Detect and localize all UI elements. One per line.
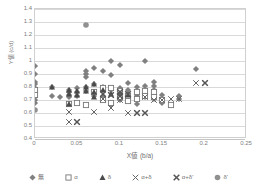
data-point [81, 66, 91, 76]
y-axis-tick-label: 0.4 [12, 135, 32, 141]
data-point [140, 87, 150, 97]
legend-item-label: 無 [38, 174, 44, 181]
data-point [72, 83, 82, 93]
data-point [115, 87, 125, 97]
cross-x-icon [131, 173, 140, 182]
data-point [140, 92, 150, 102]
data-point [106, 98, 116, 108]
data-point [174, 91, 184, 101]
data-point [89, 87, 99, 97]
data-point [81, 82, 91, 92]
plot-area [34, 8, 246, 138]
data-point [157, 95, 167, 105]
data-points-layer [35, 9, 245, 137]
data-point [132, 108, 142, 118]
data-point [89, 91, 99, 101]
data-point [47, 82, 57, 92]
data-point [106, 103, 116, 113]
y-axis-tick-labels: 0.40.50.60.70.80.911.11.21.31.4 [12, 8, 32, 138]
y-axis-tick-label: 1.4 [12, 5, 32, 11]
data-point [149, 77, 159, 87]
data-point [106, 90, 116, 100]
y-axis-tick-label: 1.3 [12, 18, 32, 24]
data-point [35, 105, 40, 115]
data-point [81, 100, 91, 110]
data-point [35, 90, 40, 100]
triangle-filled-icon [98, 173, 107, 182]
data-point [89, 79, 99, 89]
data-point [115, 60, 125, 70]
data-point [35, 90, 40, 100]
data-point [115, 91, 125, 101]
y-axis-tick-label: 0.9 [12, 70, 32, 76]
y-axis-tick-label: 1.1 [12, 44, 32, 50]
data-point [106, 85, 116, 95]
data-point [132, 108, 142, 118]
data-point [140, 91, 150, 101]
x-axis-tick-label: 0.15 [155, 140, 167, 147]
x-axis-tick-label: 0.2 [199, 140, 207, 147]
data-point [55, 92, 65, 102]
data-point [64, 90, 74, 100]
data-point [47, 82, 57, 92]
legend-item-5[interactable]: α+δ' [172, 173, 193, 182]
data-point [115, 95, 125, 105]
diamond-filled-icon [28, 173, 37, 182]
data-point [72, 86, 82, 96]
data-point [157, 94, 167, 104]
y-axis-tick-label: 0.7 [12, 96, 32, 102]
data-point [64, 99, 74, 109]
data-point [140, 92, 150, 102]
data-point [81, 72, 91, 82]
data-point [149, 94, 159, 104]
data-point [191, 78, 201, 88]
data-point [98, 92, 108, 102]
x-axis-tick-label: 0.05 [71, 140, 83, 147]
data-point [132, 94, 142, 104]
data-point [149, 95, 159, 105]
data-point [81, 86, 91, 96]
legend-item-label: δ' [223, 174, 228, 181]
data-point [115, 83, 125, 93]
legend-item-6[interactable]: δ' [213, 173, 228, 182]
data-point [98, 94, 108, 104]
data-point [35, 92, 40, 102]
data-point [140, 56, 150, 66]
data-point [98, 85, 108, 95]
y-axis-tick-label: 0.5 [12, 122, 32, 128]
data-point [132, 99, 142, 109]
scatter-chart: Y値 (c/d) 0.40.50.60.70.80.911.11.21.31.4… [0, 0, 253, 190]
legend-item-label: α+δ [141, 174, 151, 181]
data-point [132, 87, 142, 97]
data-point [149, 81, 159, 91]
legend-item-label: α+δ' [182, 174, 193, 181]
data-point [64, 85, 74, 95]
data-point [174, 94, 184, 104]
data-point [166, 100, 176, 110]
data-point [35, 98, 40, 108]
y-axis-tick-label: 1 [12, 57, 32, 63]
legend-item-3[interactable]: δ [98, 173, 111, 182]
data-point [98, 95, 108, 105]
data-point [72, 90, 82, 100]
data-point [89, 79, 99, 89]
data-point [106, 100, 116, 110]
data-point [200, 78, 210, 88]
x-axis-tick-label: 0.25 [240, 140, 252, 147]
data-point [106, 83, 116, 93]
data-point [140, 108, 150, 118]
data-point [132, 87, 142, 97]
data-point [98, 89, 108, 99]
square-open-icon [64, 173, 73, 182]
legend-item-2[interactable]: α [64, 173, 77, 182]
data-point [157, 90, 167, 100]
data-point [72, 91, 82, 101]
legend-item-4[interactable]: α+δ [131, 173, 151, 182]
chart-legend: 無αδα+δα+δ'δ' [14, 170, 242, 184]
legend-item-1[interactable]: 無 [28, 173, 44, 182]
data-point [72, 98, 82, 108]
legend-item-label: δ [108, 174, 111, 181]
data-point [166, 94, 176, 104]
data-point [123, 90, 133, 100]
data-point [98, 66, 108, 76]
